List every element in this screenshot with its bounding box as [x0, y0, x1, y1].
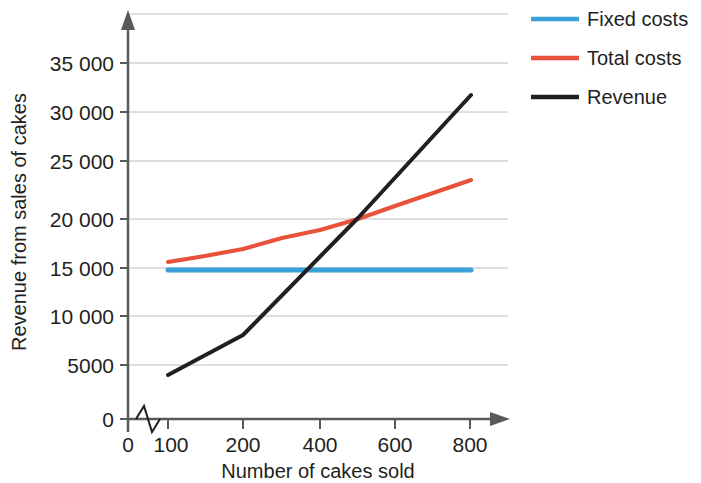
legend-item-revenue[interactable]: Revenue: [531, 86, 667, 108]
y-tick-label-10000: 10 000: [50, 305, 114, 328]
y-tick-label-5000: 5000: [67, 354, 114, 377]
x-tick-label-0: 0: [122, 433, 134, 456]
y-tick-label-25000: 25 000: [50, 150, 114, 173]
y-axis: [120, 10, 135, 432]
legend-item-total-costs[interactable]: Total costs: [531, 47, 681, 69]
legend-label-fixed-costs: Fixed costs: [587, 8, 688, 30]
x-tick-label-100: 100: [153, 433, 188, 456]
y-tick-label-15000: 15 000: [50, 257, 114, 280]
x-tick-label-400: 400: [302, 433, 337, 456]
x-tick-label-200: 200: [225, 433, 260, 456]
x-axis: [128, 406, 510, 432]
legend-label-revenue: Revenue: [587, 86, 667, 108]
gridlines: [128, 14, 508, 365]
legend-label-total-costs: Total costs: [587, 47, 681, 69]
x-tick-label-600: 600: [377, 433, 412, 456]
y-axis-arrow: [121, 10, 135, 30]
chart-figure: 35 000 30 000 25 000 20 000 15 000 10 00…: [0, 0, 701, 483]
x-axis-title: Number of cakes sold: [221, 460, 414, 482]
legend: Fixed costs Total costs Revenue: [531, 8, 688, 108]
x-tick-label-800: 800: [452, 433, 487, 456]
series-line-total-costs: [168, 180, 471, 262]
series-group: [168, 95, 471, 375]
y-axis-title: Revenue from sales of cakes: [8, 93, 30, 351]
y-tick-labels: 35 000 30 000 25 000 20 000 15 000 10 00…: [50, 52, 114, 431]
x-tick-labels: 0 100 200 400 600 800: [122, 433, 487, 456]
y-tick-label-20000: 20 000: [50, 208, 114, 231]
line-chart: 35 000 30 000 25 000 20 000 15 000 10 00…: [0, 0, 701, 483]
y-tick-label-0: 0: [102, 408, 114, 431]
y-tick-label-30000: 30 000: [50, 101, 114, 124]
x-axis-arrow: [490, 412, 510, 426]
series-line-revenue: [168, 95, 471, 375]
legend-item-fixed-costs[interactable]: Fixed costs: [531, 8, 688, 30]
y-tick-label-35000: 35 000: [50, 52, 114, 75]
